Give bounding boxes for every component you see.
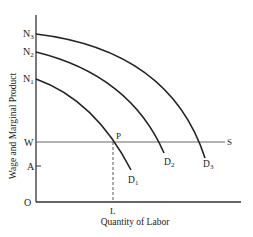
labor-market-diagram: N3 N2 N1 W A O Wage and Marginal Product… xyxy=(0,0,253,237)
d3-label: D3 xyxy=(203,159,214,171)
d2-label: D2 xyxy=(164,157,175,169)
point-p-label: P xyxy=(116,131,121,141)
d1-label: D1 xyxy=(128,175,139,187)
demand-curve-d2 xyxy=(36,52,164,153)
a-label: A xyxy=(27,161,35,172)
n3-label: N3 xyxy=(23,28,34,41)
origin-label: O xyxy=(24,197,31,208)
supply-s-label: S xyxy=(227,137,232,147)
n1-label: N1 xyxy=(23,73,34,86)
l-label: L xyxy=(110,206,116,216)
w-label: W xyxy=(24,137,34,148)
demand-curve-d1 xyxy=(36,79,131,170)
x-axis-title: Quantity of Labor xyxy=(101,217,170,227)
y-axis-title: Wage and Marginal Product xyxy=(8,72,18,179)
n2-label: N2 xyxy=(23,46,34,59)
